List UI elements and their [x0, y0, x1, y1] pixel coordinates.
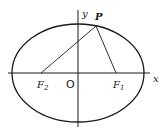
origin-label: O: [66, 78, 75, 91]
svg-text:2: 2: [43, 84, 49, 92]
svg-text:1: 1: [120, 84, 124, 92]
focus-F1-label: F 1: [112, 79, 124, 92]
x-axis-label: x: [153, 73, 159, 84]
point-P-label: P: [94, 11, 103, 22]
focus-F2-label: F 2: [36, 79, 49, 92]
ellipse-diagram: y x P O F 2 F 1: [0, 0, 168, 133]
y-axis-label: y: [81, 8, 88, 19]
segment-P-F1: [96, 26, 116, 73]
segment-F2-P: [41, 26, 96, 73]
